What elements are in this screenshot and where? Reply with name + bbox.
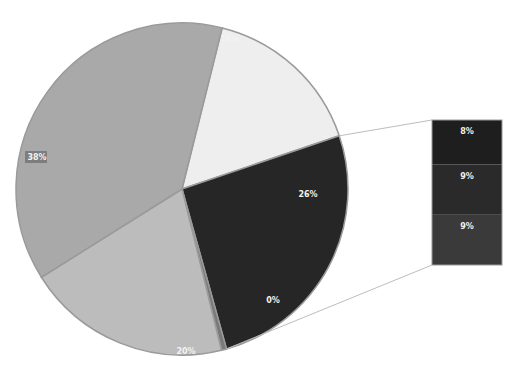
bar-segment-label: 8% xyxy=(460,127,474,136)
bar-segment-label: 9% xyxy=(460,172,474,181)
slice-label: 26% xyxy=(298,190,317,199)
bar-of-pie-chart: 16%26%0%20%38%8%9%9% xyxy=(0,0,519,376)
slice-label: 20% xyxy=(176,347,195,356)
bar-segment-label: 9% xyxy=(460,222,474,231)
slice-label: 0% xyxy=(266,296,280,305)
slice-label: 16% xyxy=(220,35,239,44)
connector-line xyxy=(339,120,432,136)
slice-label: 38% xyxy=(27,153,46,162)
